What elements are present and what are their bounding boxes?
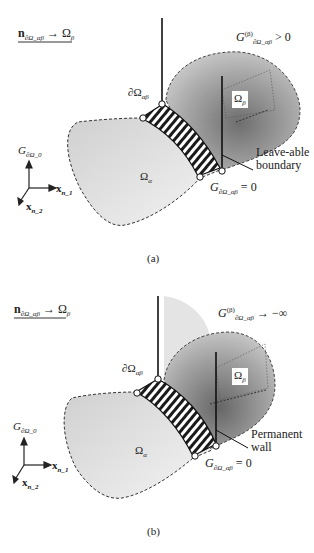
node-bottom-right	[213, 443, 219, 449]
boundary-label: ∂Ωαβ	[122, 362, 143, 377]
axis-label-oblique: xn_2	[26, 200, 42, 215]
axes-icon	[18, 161, 56, 205]
node-bottom	[192, 453, 198, 459]
node-top	[155, 376, 161, 382]
omega-beta-label: Ωβ	[232, 91, 248, 108]
caption-a: (a)	[147, 252, 159, 264]
boundary-label: ∂Ωαβ	[128, 86, 149, 101]
axis-label-vertical: G∂Ω_0	[13, 420, 36, 435]
axis-label-vertical: G∂Ω_0	[18, 144, 41, 159]
node-left	[134, 390, 140, 396]
panel-a: n∂Ω_αβ → Ωβ ∂Ωαβ G(β)∂Ω_αβ > 0 Ωβ Ωα G∂Ω…	[0, 0, 314, 280]
node-left	[140, 115, 146, 121]
omega-beta-label: Ωβ	[232, 368, 248, 385]
omega-alpha-label: Ωα	[140, 170, 152, 185]
beta-condition-label: G(β)∂Ω_αβ > 0	[236, 30, 291, 46]
caption-b: (b)	[147, 525, 160, 537]
node-bottom-right	[219, 168, 225, 174]
node-top	[159, 101, 165, 107]
annotation-permanent-wall: Permanent wall	[251, 428, 302, 454]
axis-label-oblique: xn_2	[22, 476, 38, 491]
zero-condition-label: G∂Ω_αβ = 0	[205, 456, 252, 472]
panel-b: n∂Ω_αβ → Ωβ ∂Ωαβ G(β)∂Ω_αβ → −∞ Ωβ Ωα G∂…	[0, 280, 314, 553]
node-bottom	[197, 174, 203, 180]
beta-condition-label: G(β)∂Ω_αβ → −∞	[218, 306, 287, 322]
zero-condition-label: G∂Ω_αβ = 0	[210, 180, 257, 196]
axis-label-horizontal: xn_1	[56, 182, 72, 197]
omega-alpha-label: Ωα	[135, 444, 147, 459]
direction-label: n∂Ω_αβ → Ωβ	[14, 302, 70, 318]
annotation-leave-able-boundary: Leave-able boundary	[256, 146, 309, 172]
direction-label: n∂Ω_αβ → Ωβ	[18, 26, 74, 42]
axis-label-horizontal: xn_1	[52, 459, 68, 474]
